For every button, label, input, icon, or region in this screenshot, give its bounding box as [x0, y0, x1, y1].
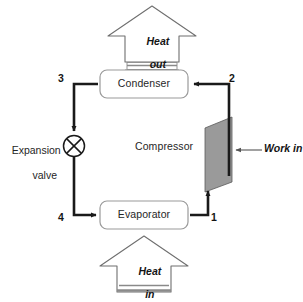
state-point-1-label: 1	[211, 212, 217, 224]
heat-out-label: Heat out	[124, 24, 180, 83]
expansion-valve-label-line2: valve	[32, 169, 57, 181]
expansion-valve-label-line1: Expansion	[12, 144, 61, 156]
compressor-label: Compressor	[135, 141, 193, 153]
heat-out-label-line1: Heat	[146, 35, 169, 47]
pipe-evaporator-to-compressor	[190, 191, 208, 215]
state-point-3-label: 3	[58, 73, 64, 85]
heat-out-label-line2: out	[150, 58, 166, 70]
heat-in-label-line1: Heat	[138, 265, 161, 277]
pipe-valve-to-evaporator	[74, 157, 96, 215]
state-point-4-label: 4	[58, 212, 64, 224]
heat-in-label-line2: in	[145, 288, 154, 300]
expansion-valve-label: Expansion valve	[0, 132, 57, 194]
evaporator-label: Evaporator	[100, 209, 188, 221]
pipe-condenser-to-valve	[74, 84, 98, 131]
heat-in-label: Heat in	[116, 254, 172, 302]
work-in-label: Work in	[264, 143, 302, 155]
state-point-2-label: 2	[229, 73, 235, 85]
condenser-label: Condenser	[100, 78, 188, 90]
expansion-valve-symbol	[64, 136, 85, 157]
